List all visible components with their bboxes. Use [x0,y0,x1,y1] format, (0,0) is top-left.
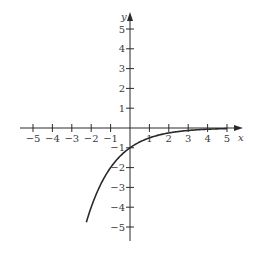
x-tick-label: 3 [185,133,191,144]
x-tick-label: 2 [166,133,172,144]
y-tick-label: 3 [119,63,125,74]
y-axis-label: y [120,11,127,22]
y-tick-label: 4 [119,43,125,54]
x-tick-label: −3 [64,133,79,144]
y-tick-label: −5 [110,222,125,233]
axes: x y [20,11,244,241]
y-tick-label: 2 [119,83,125,94]
x-axis-label: x [238,132,244,143]
y-axis-arrow-icon [127,12,133,21]
chart: x y −5−4−3−2−11234554321−1−2−3−4−5 [0,0,258,253]
y-tick-label: −1 [110,142,125,153]
x-tick-label: 4 [204,133,210,144]
x-axis-arrow-icon [234,125,243,131]
y-tick-label: −3 [110,182,125,193]
y-tick-label: 1 [119,103,125,114]
y-tick-label: 5 [119,24,125,35]
x-tick-label: −4 [45,133,60,144]
x-tick-label: −5 [26,133,41,144]
x-tick-label: 5 [224,133,230,144]
y-tick-label: −4 [110,202,125,213]
x-tick-label: −2 [84,133,99,144]
